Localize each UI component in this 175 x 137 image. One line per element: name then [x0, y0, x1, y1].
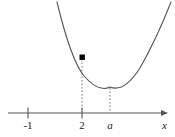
tick-label-minus-1: -1 — [20, 120, 36, 131]
parabola-figure: -1 2 a x — [0, 0, 175, 137]
tick-label-2: 2 — [75, 120, 89, 131]
tick-label-a: a — [104, 120, 116, 131]
figure-canvas — [0, 0, 175, 137]
x-axis-arrow-icon — [161, 110, 168, 116]
point-marker-square — [80, 55, 85, 60]
parabola-curve — [57, 2, 171, 89]
x-axis-label: x — [162, 120, 167, 131]
